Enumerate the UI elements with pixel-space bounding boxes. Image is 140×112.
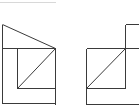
diagram-canvas (0, 0, 139, 112)
left-view (3, 25, 56, 105)
right-view (87, 25, 140, 105)
right-view-diagonal (87, 49, 126, 89)
left-view-sloped-top-edge (3, 25, 56, 49)
left-view-diagonal (18, 49, 56, 89)
